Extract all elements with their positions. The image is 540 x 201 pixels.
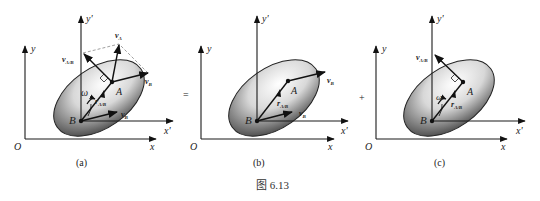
point-a-label: A	[466, 86, 474, 97]
v-b-label-at-a: vB	[145, 77, 153, 87]
point-b	[255, 119, 259, 123]
y-prime-label: y'	[261, 13, 269, 24]
y-label: y	[206, 43, 212, 54]
omega-label: ω	[81, 87, 88, 98]
omega-label: ω	[436, 92, 442, 102]
plus-operator: +	[359, 92, 365, 103]
origin-label: O	[365, 141, 372, 152]
point-a	[286, 79, 290, 83]
origin-label: O	[14, 141, 21, 152]
panel-a: O y x y' x' B A ω rA/B vB vB	[14, 13, 173, 169]
point-b-label: B	[69, 114, 76, 126]
rigid-body	[390, 44, 508, 152]
equals-operator: =	[183, 89, 189, 100]
x-prime-label: x'	[340, 125, 348, 136]
v-ab-label: vA/B	[62, 55, 74, 65]
panel-b-label: (b)	[253, 157, 265, 169]
point-b-label: B	[245, 114, 252, 126]
point-b	[79, 119, 83, 123]
x-prime-label: x'	[163, 125, 171, 136]
panel-a-label: (a)	[76, 157, 87, 169]
v-ab-label: vA/B	[416, 53, 428, 63]
x-label: x	[327, 141, 333, 152]
point-b	[430, 119, 434, 123]
point-a	[461, 80, 465, 84]
y-prime-label: y'	[436, 13, 444, 24]
x-prime-label: x'	[515, 125, 523, 136]
panel-c: O y x y' x' B A ω rA/B vA/B (c)	[365, 13, 525, 169]
point-b-label: B	[420, 114, 427, 126]
y-label: y	[30, 43, 36, 54]
point-a	[110, 80, 114, 84]
y-label: y	[381, 43, 387, 54]
v-a-label: vA	[115, 31, 123, 41]
panel-b: O y x y' x' B A rA/B vB vB (b)	[190, 13, 348, 169]
panel-c-label: (c)	[434, 157, 445, 169]
x-label: x	[500, 141, 506, 152]
origin-label: O	[190, 141, 197, 152]
figure-caption: 图 6.13	[256, 179, 290, 191]
figure-6-13: O y x y' x' B A ω rA/B vB vB	[0, 0, 540, 201]
x-label: x	[149, 141, 155, 152]
point-a-label: A	[290, 85, 298, 96]
v-b-label-at-a: vB	[327, 76, 335, 86]
point-a-label: A	[115, 86, 123, 97]
y-prime-label: y'	[85, 13, 93, 24]
